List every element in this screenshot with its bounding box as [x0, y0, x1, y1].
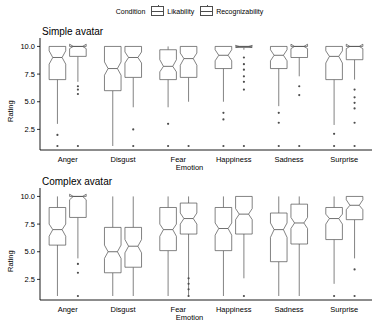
box: [326, 207, 343, 239]
boxplot-likability-disgust: [104, 196, 121, 296]
x-tick-label: Anger: [58, 155, 79, 164]
boxplot-recognizability-anger: [70, 194, 87, 297]
boxplot-recognizability-fear: [180, 196, 197, 297]
outlier-point: [353, 88, 355, 90]
outlier-point: [132, 128, 134, 130]
boxplot-recognizability-anger: [70, 44, 87, 147]
x-tick-label: Disgust: [110, 305, 136, 314]
y-tick-label: 5.0: [25, 247, 35, 256]
boxplot-recognizability-surprise: [346, 196, 363, 297]
likability-key-icon: [151, 6, 164, 16]
legend: Condition Likability Recognizability: [0, 6, 379, 16]
box: [291, 204, 308, 244]
boxplot-recognizability-sadness: [291, 44, 308, 147]
outlier-point: [222, 112, 224, 114]
box: [160, 50, 177, 80]
outlier-point: [243, 56, 245, 58]
box: [326, 46, 343, 79]
outlier-point: [243, 75, 245, 77]
box: [236, 196, 253, 234]
x-tick-label: Anger: [58, 305, 79, 314]
outlier-point: [333, 133, 335, 135]
boxplot-recognizability-surprise: [346, 44, 363, 147]
outlier-point: [187, 145, 189, 147]
box: [270, 46, 287, 68]
box: [270, 213, 287, 262]
boxplot-likability-anger: [49, 46, 66, 147]
box: [180, 46, 197, 77]
boxplot-likability-anger: [49, 196, 66, 296]
y-tick-label: 5.0: [25, 97, 35, 106]
y-tick-label: 10.0: [20, 42, 35, 51]
outlier-point: [353, 268, 355, 270]
plot-area-complex: 2.55.07.510.0AngerDisgustFearHappinessSa…: [0, 172, 379, 322]
x-tick-label: Surprise: [330, 305, 358, 314]
outlier-point: [243, 81, 245, 83]
box: [49, 207, 66, 245]
outlier-point: [353, 295, 355, 297]
boxplot-recognizability-fear: [180, 46, 197, 147]
outlier-point: [298, 94, 300, 96]
legend-item-likability[interactable]: Likability: [151, 6, 194, 16]
outlier-point: [353, 107, 355, 109]
outlier-point: [187, 295, 189, 297]
y-tick-label: 7.5: [25, 220, 35, 229]
outlier-point: [167, 123, 169, 125]
x-tick-label: Sadness: [274, 305, 303, 314]
box: [215, 207, 232, 250]
outlier-point: [187, 283, 189, 285]
plot-area-simple: 2.55.07.510.0AngerDisgustFearHappinessSa…: [0, 22, 379, 172]
box: [49, 46, 66, 79]
outlier-point: [243, 145, 245, 147]
box: [215, 46, 232, 68]
y-tick-label: 2.5: [25, 275, 35, 284]
x-tick-label: Happiness: [216, 155, 252, 164]
outlier-point: [278, 112, 280, 114]
outlier-point: [298, 85, 300, 87]
outlier-point: [298, 145, 300, 147]
boxplot-likability-sadness: [270, 196, 287, 296]
outlier-point: [77, 93, 79, 95]
recognizability-key-icon: [200, 6, 213, 16]
boxplot-likability-happiness: [215, 196, 232, 296]
outlier-point: [77, 145, 79, 147]
boxplot-likability-disgust: [104, 46, 121, 146]
outlier-point: [278, 145, 280, 147]
outlier-point: [353, 122, 355, 124]
outlier-point: [243, 88, 245, 90]
outlier-point: [243, 295, 245, 297]
legend-label-likability: Likability: [167, 8, 194, 15]
box: [125, 46, 142, 77]
boxplot-recognizability-disgust: [125, 46, 142, 147]
y-tick-label: 10.0: [20, 192, 35, 201]
panel-complex-avatar: Complex avatar Rating Emotion 2.55.07.51…: [0, 172, 379, 322]
outlier-point: [77, 85, 79, 87]
outlier-point: [56, 134, 58, 136]
box: [160, 207, 177, 250]
outlier-point: [77, 272, 79, 274]
boxplot-recognizability-disgust: [125, 196, 142, 296]
boxplot-likability-surprise: [326, 46, 343, 147]
boxplot-likability-fear: [160, 196, 177, 296]
box: [70, 194, 87, 217]
x-tick-label: Disgust: [110, 155, 136, 164]
outlier-point: [353, 96, 355, 98]
outlier-point: [132, 145, 134, 147]
chart-root: Condition Likability Recognizability Sim…: [0, 0, 379, 332]
x-tick-label: Happiness: [216, 305, 252, 314]
boxplot-recognizability-happiness: [236, 196, 253, 297]
outlier-point: [353, 102, 355, 104]
box: [346, 196, 363, 219]
outlier-point: [77, 88, 79, 90]
panel-simple-avatar: Simple avatar Rating Emotion 2.55.07.510…: [0, 22, 379, 172]
x-tick-label: Fear: [171, 305, 187, 314]
x-tick-label: Sadness: [274, 155, 303, 164]
x-tick-label: Surprise: [330, 155, 358, 164]
outlier-point: [243, 63, 245, 65]
outlier-point: [243, 69, 245, 71]
legend-item-recognizability[interactable]: Recognizability: [200, 6, 263, 16]
outlier-point: [353, 145, 355, 147]
legend-label-recognizability: Recognizability: [216, 8, 263, 15]
y-tick-label: 2.5: [25, 125, 35, 134]
outlier-point: [222, 145, 224, 147]
